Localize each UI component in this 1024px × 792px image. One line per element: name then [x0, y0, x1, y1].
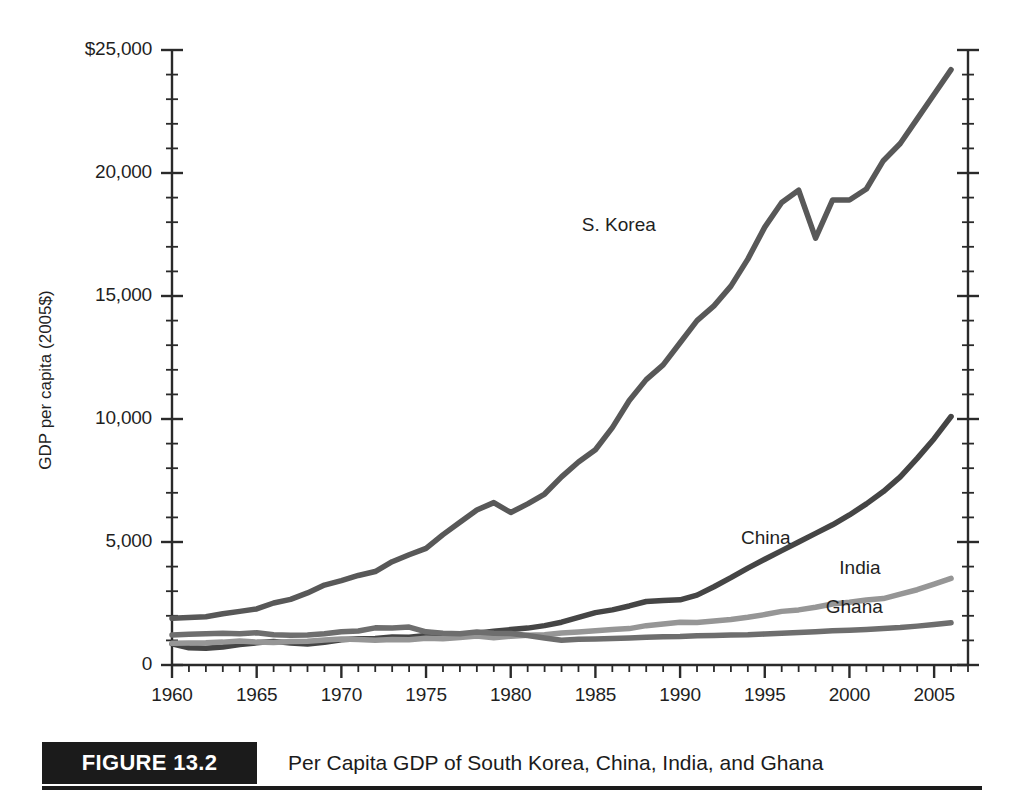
xtick-label-1990: 1990: [640, 685, 720, 704]
xtick-label-2005: 2005: [894, 685, 974, 704]
series-label-s-korea: S. Korea: [582, 215, 656, 234]
series-label-china: China: [741, 528, 791, 547]
ytick-label-15000: 15,000: [0, 285, 152, 304]
y-axis-title: GDP per capita (2005$): [36, 250, 56, 510]
series-label-ghana: Ghana: [826, 597, 883, 616]
figure-container: $25,000 20,000 15,000 10,000 5,000 0 196…: [0, 0, 1024, 792]
figure-number-badge: FIGURE 13.2: [42, 742, 257, 784]
xtick-label-1970: 1970: [301, 685, 381, 704]
ytick-label-20000: 20,000: [0, 162, 152, 181]
xtick-label-1960: 1960: [132, 685, 212, 704]
series-group: [172, 70, 951, 649]
figure-caption-text: Per Capita GDP of South Korea, China, In…: [288, 742, 823, 784]
series-label-india: India: [839, 558, 880, 577]
chart-plot-area: $25,000 20,000 15,000 10,000 5,000 0 196…: [0, 0, 1024, 720]
axis-group: [161, 50, 979, 678]
caption-rule: [42, 786, 982, 790]
ytick-label-10000: 10,000: [0, 408, 152, 427]
xtick-label-1985: 1985: [555, 685, 635, 704]
xtick-label-1975: 1975: [386, 685, 466, 704]
ytick-label-25000: $25,000: [0, 39, 152, 58]
xtick-label-1965: 1965: [217, 685, 297, 704]
xtick-label-1995: 1995: [725, 685, 805, 704]
ytick-label-5000: 5,000: [0, 531, 152, 550]
figure-caption: FIGURE 13.2 Per Capita GDP of South Kore…: [0, 726, 1024, 792]
xtick-label-2000: 2000: [809, 685, 889, 704]
series-line-s-korea: [172, 70, 951, 619]
ytick-label-0: 0: [0, 654, 152, 673]
xtick-label-1980: 1980: [471, 685, 551, 704]
